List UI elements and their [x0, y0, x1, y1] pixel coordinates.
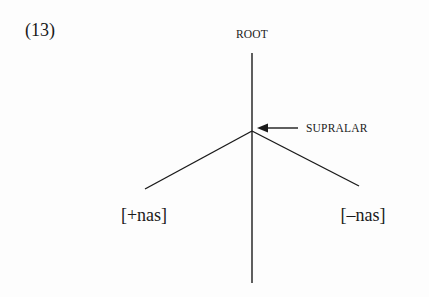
minus-nasal-label: [–nas] — [341, 205, 386, 225]
example-number: (13) — [25, 20, 55, 41]
diagram-svg: (13) ROOT SUPRALAR [+nas] [–nas] — [0, 0, 429, 297]
plus-nasal-label: [+nas] — [121, 205, 167, 225]
left-branch-line — [145, 131, 252, 189]
root-label: ROOT — [236, 28, 268, 40]
supralar-label: SUPRALAR — [306, 122, 368, 134]
right-branch-line — [252, 131, 359, 186]
arrow-left-icon — [257, 124, 298, 133]
feature-geometry-diagram: (13) ROOT SUPRALAR [+nas] [–nas] — [0, 0, 429, 297]
